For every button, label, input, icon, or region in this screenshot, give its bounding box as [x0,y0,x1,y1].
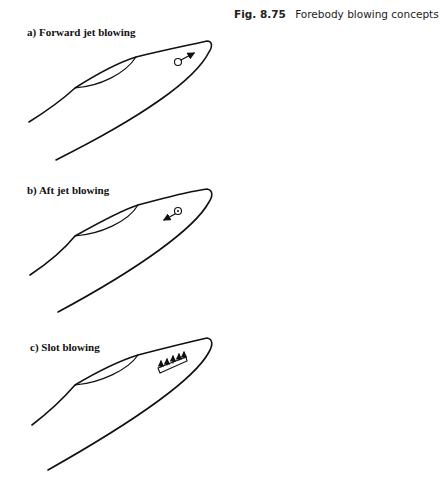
forebody-a [29,41,211,160]
slot-icon [158,352,187,373]
forebody-diagrams [0,0,447,503]
forebody-c [32,338,212,470]
forebody-b [30,189,212,312]
